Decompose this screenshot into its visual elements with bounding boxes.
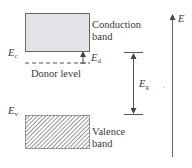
ed-label: Ed [91,52,101,67]
valence-band-label-1: Valence [92,126,125,137]
eg-label: Eg [139,78,149,93]
conduction-band-label-1: Conduction [92,19,141,30]
ev-label: Ev [8,105,18,120]
conduction-band-label-2: band [92,31,112,42]
valence-band-label-2: band [92,138,112,149]
ec-label: Ec [8,47,18,62]
valence-band-rect [26,116,90,149]
energy-axis-label: E [178,13,184,24]
conduction-band-rect [26,14,90,52]
donor-level-label: Donor level [31,68,81,79]
